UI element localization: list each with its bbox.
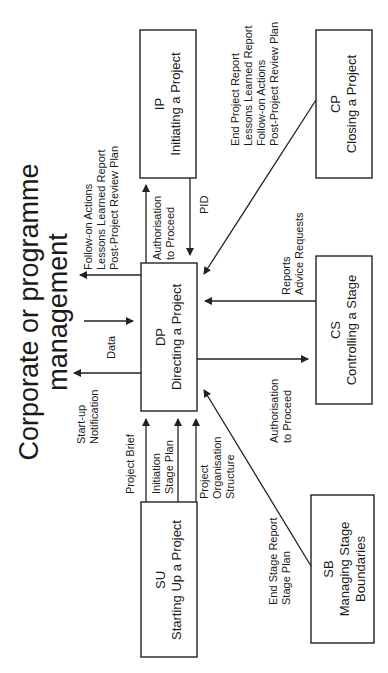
process-box-dp[interactable]: DP Directing a Project (141, 263, 197, 411)
process-box-ip[interactable]: IP Initiating a Project (140, 30, 196, 178)
flow-label: Lessons Learned Report (242, 26, 254, 146)
flow-ip-to-dp: PID (190, 178, 210, 255)
flow-su-to-dp-brief: Project Brief (124, 419, 146, 502)
diagram-title: Corporate or programme management (14, 163, 73, 460)
cp-name: Closing a Project (344, 54, 359, 153)
flow-label: Follow-on Actions (255, 59, 267, 146)
cp-code: CP (328, 95, 343, 113)
flow-label: Stage Plan (280, 551, 292, 605)
flow-corporate-to-dp-data: Data (84, 321, 133, 359)
flow-label: Start-up (75, 405, 87, 444)
su-code: SU (153, 571, 168, 589)
flow-label: Initiation (150, 453, 162, 494)
flow-label: Advice Requests (293, 212, 305, 295)
flow-label: End Project Report (229, 53, 241, 146)
sb-code: SB (321, 560, 336, 577)
title-line-2: management (43, 233, 73, 391)
flow-label: Structure (224, 454, 236, 499)
flow-label: End Stage Report (267, 518, 279, 605)
sb-name: Managing Stage (337, 522, 352, 617)
dp-code: DP (153, 328, 168, 346)
flow-label: Data (105, 335, 117, 359)
dp-name: Directing a Project (169, 284, 184, 391)
prince2-process-diagram: Corporate or programme management IP Ini… (0, 0, 388, 673)
flow-label: Project (198, 465, 210, 499)
flow-su-to-dp-structure: Project Organisation Structure (196, 419, 236, 502)
flow-dp-to-corporate-closure: Follow-on Actions Lessons Learned Report… (80, 146, 141, 275)
flow-label: to Proceed (164, 207, 176, 260)
flow-label: Stage Plan (163, 440, 175, 494)
flow-label: Post-Project Review Plan (268, 22, 280, 146)
flow-label: Notification (88, 390, 100, 444)
flow-label: Reports (280, 256, 292, 295)
flow-su-to-dp-stage-plan: Initiation Stage Plan (150, 419, 178, 502)
flow-label: Authorisation (268, 379, 280, 443)
sb-name-2: Boundaries (353, 536, 368, 602)
flow-dp-to-ip: Authorisation to Proceed (146, 185, 176, 263)
title-line-1: Corporate or programme (14, 163, 44, 460)
ip-name: Initiating a Project (168, 52, 183, 156)
flow-label: Lessons Learned Report (95, 150, 107, 270)
process-box-su[interactable]: SU Starting Up a Project (141, 502, 197, 657)
flow-label: Follow-on Actions (82, 183, 94, 270)
process-box-sb[interactable]: SB Managing Stage Boundaries (311, 495, 374, 643)
su-name: Starting Up a Project (169, 520, 184, 640)
flow-label: to Proceed (281, 390, 293, 443)
ip-code: IP (152, 98, 167, 110)
flow-label: Project Brief (124, 433, 136, 494)
flow-label: PID (198, 196, 210, 214)
flow-dp-to-cs: Authorisation to Proceed (197, 359, 308, 443)
flow-dp-to-corporate-startup: Start-up Notification (74, 373, 141, 444)
flow-label: Post-Project Review Plan (108, 146, 120, 270)
flow-label: Organisation (211, 437, 223, 499)
flow-cs-to-dp: Reports Advice Requests (205, 212, 316, 301)
cs-name: Controlling a Stage (344, 275, 359, 386)
flow-label: Authorisation (151, 196, 163, 260)
process-box-cs[interactable]: CS Controlling a Stage (316, 256, 372, 404)
cs-code: CS (328, 321, 343, 339)
process-box-cp[interactable]: CP Closing a Project (316, 30, 372, 178)
